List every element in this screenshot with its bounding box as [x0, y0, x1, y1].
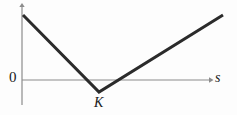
plot-canvas [0, 0, 237, 115]
x-axis-strike-label: K [94, 96, 103, 110]
y-axis-arrowhead [19, 3, 24, 7]
payoff-diagram-figure: 0 K s [0, 0, 237, 115]
x-axis-arrowhead [209, 77, 214, 83]
x-axis-variable-label: s [215, 71, 220, 85]
y-axis-origin-label: 0 [9, 70, 17, 85]
